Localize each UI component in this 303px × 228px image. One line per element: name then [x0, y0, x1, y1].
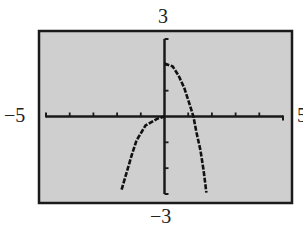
graph-screen — [0, 0, 303, 228]
